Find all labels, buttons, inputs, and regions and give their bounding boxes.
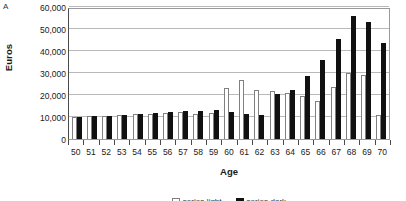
chart-figure: A Euros 60,00050,00040,00030,00020,00010… bbox=[0, 0, 406, 201]
y-tick-label: 10,000 bbox=[18, 114, 66, 123]
gridline bbox=[69, 6, 389, 7]
bar-group bbox=[267, 9, 282, 139]
bar-group bbox=[176, 9, 191, 139]
x-tick-mark bbox=[298, 140, 299, 145]
x-tick-mark bbox=[129, 140, 130, 145]
bar-group bbox=[69, 9, 84, 139]
bar-series-dark-62 bbox=[259, 115, 264, 139]
x-tick-mark bbox=[114, 140, 115, 145]
x-tick-label: 67 bbox=[329, 147, 344, 159]
bar-series-dark-66 bbox=[320, 60, 325, 139]
x-tick-label: 70 bbox=[375, 147, 390, 159]
x-tick-mark bbox=[99, 140, 100, 145]
legend: series-lightseries-dark bbox=[68, 196, 390, 201]
bar-group bbox=[298, 9, 313, 139]
x-tick-label: 52 bbox=[99, 147, 114, 159]
legend-item: series-dark bbox=[236, 198, 287, 201]
x-tick-mark bbox=[221, 140, 222, 145]
x-tick-mark bbox=[83, 140, 84, 145]
bar-series-dark-59 bbox=[214, 110, 219, 139]
y-axis-title: Euros bbox=[3, 32, 14, 84]
x-tick-mark bbox=[145, 140, 146, 145]
bar-series-dark-67 bbox=[336, 39, 341, 139]
legend-swatch bbox=[172, 198, 180, 201]
bar-group bbox=[358, 9, 373, 139]
bar-series-dark-52 bbox=[107, 116, 112, 139]
plot-area bbox=[68, 8, 390, 140]
bar-group bbox=[145, 9, 160, 139]
bar-series-dark-53 bbox=[122, 115, 127, 139]
x-tick-mark bbox=[313, 140, 314, 145]
x-tick-label: 63 bbox=[267, 147, 282, 159]
y-tick-label: 20,000 bbox=[18, 92, 66, 101]
legend-label: series-dark bbox=[247, 198, 287, 201]
x-tick-label: 50 bbox=[68, 147, 83, 159]
x-tick-label: 51 bbox=[83, 147, 98, 159]
bar-series-dark-65 bbox=[305, 76, 310, 139]
x-tick-label: 68 bbox=[344, 147, 359, 159]
x-tick-mark bbox=[267, 140, 268, 145]
x-tick-mark bbox=[329, 140, 330, 145]
x-tick-label: 56 bbox=[160, 147, 175, 159]
panel-letter: A bbox=[3, 2, 8, 11]
x-axis-ticks bbox=[68, 140, 390, 147]
bar-group bbox=[115, 9, 130, 139]
legend-item: series-light bbox=[172, 198, 222, 201]
x-tick-label: 53 bbox=[114, 147, 129, 159]
bar-group bbox=[343, 9, 358, 139]
x-tick-label: 66 bbox=[313, 147, 328, 159]
bar-series-dark-57 bbox=[183, 111, 188, 139]
bar-group bbox=[130, 9, 145, 139]
x-tick-label: 57 bbox=[175, 147, 190, 159]
bar-series-container bbox=[69, 9, 389, 139]
x-tick-label: 62 bbox=[252, 147, 267, 159]
bar-series-dark-55 bbox=[153, 113, 158, 139]
y-tick-label: 40,000 bbox=[18, 48, 66, 57]
legend-swatch bbox=[236, 198, 244, 201]
y-tick-label: 50,000 bbox=[18, 26, 66, 35]
bar-series-dark-54 bbox=[138, 114, 143, 139]
x-tick-label: 69 bbox=[359, 147, 374, 159]
legend-label: series-light bbox=[183, 198, 222, 201]
x-tick-label: 54 bbox=[129, 147, 144, 159]
x-tick-mark bbox=[359, 140, 360, 145]
bar-group bbox=[160, 9, 175, 139]
x-tick-mark bbox=[206, 140, 207, 145]
bar-group bbox=[84, 9, 99, 139]
bar-series-dark-61 bbox=[244, 114, 249, 139]
x-tick-mark bbox=[344, 140, 345, 145]
x-tick-mark bbox=[68, 140, 69, 145]
x-tick-mark bbox=[252, 140, 253, 145]
bar-group bbox=[237, 9, 252, 139]
x-tick-mark bbox=[375, 140, 376, 145]
bar-series-dark-60 bbox=[229, 112, 234, 140]
bar-group bbox=[313, 9, 328, 139]
x-tick-label: 64 bbox=[283, 147, 298, 159]
bar-series-dark-64 bbox=[290, 90, 295, 140]
x-tick-mark bbox=[237, 140, 238, 145]
bar-series-dark-56 bbox=[168, 112, 173, 139]
bar-series-dark-68 bbox=[351, 16, 356, 139]
y-tick-label: 30,000 bbox=[18, 70, 66, 79]
x-tick-mark bbox=[175, 140, 176, 145]
bar-group bbox=[99, 9, 114, 139]
bar-group bbox=[206, 9, 221, 139]
x-tick-mark bbox=[160, 140, 161, 145]
bar-group bbox=[191, 9, 206, 139]
bar-series-dark-69 bbox=[366, 22, 371, 139]
x-tick-mark bbox=[283, 140, 284, 145]
x-tick-label: 60 bbox=[221, 147, 236, 159]
x-tick-label: 59 bbox=[206, 147, 221, 159]
y-tick-label: 60,000 bbox=[18, 4, 66, 13]
bar-series-dark-50 bbox=[77, 117, 82, 139]
x-tick-mark bbox=[191, 140, 192, 145]
x-axis-title: Age bbox=[68, 166, 390, 177]
bar-group bbox=[374, 9, 389, 139]
x-tick-label: 61 bbox=[237, 147, 252, 159]
bar-series-dark-51 bbox=[92, 116, 97, 139]
bar-group bbox=[282, 9, 297, 139]
x-axis-tick-labels: 5051525354555657585960616263646566676869… bbox=[68, 147, 390, 159]
bar-series-dark-58 bbox=[198, 111, 203, 139]
y-axis-tick-labels: 60,00050,00040,00030,00020,00010,0000 bbox=[18, 0, 66, 145]
bar-group bbox=[252, 9, 267, 139]
